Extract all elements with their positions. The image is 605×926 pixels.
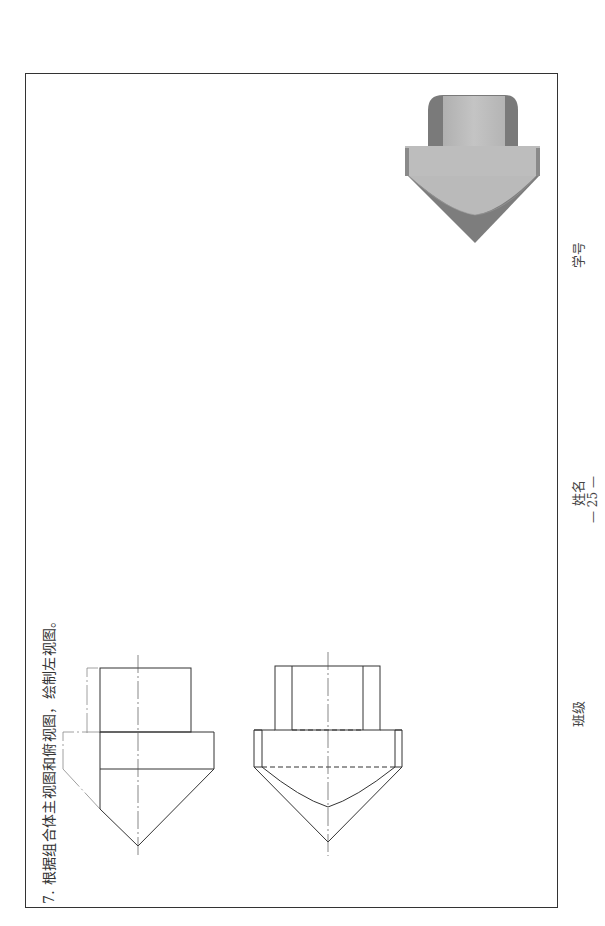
front-view-drawing [63, 655, 214, 856]
drawings-canvas [0, 0, 605, 926]
3d-model-render [405, 95, 540, 243]
top-view-drawing [254, 652, 402, 856]
